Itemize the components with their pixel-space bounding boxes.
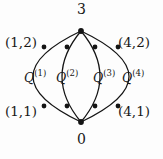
arc-label-1: Q(1) [24, 70, 46, 85]
graph-figure: 3 0 (1,2) (4,2) (1,1) (4,1) Q(1) Q(2) Q(… [0, 0, 163, 159]
arc-3-upper-node [93, 45, 98, 50]
corner-label-bottom-right: (4,1) [118, 105, 150, 119]
arc-1-upper-node [42, 45, 47, 50]
bottom-vertex-label: 0 [0, 132, 163, 146]
corner-label-top-right: (4,2) [118, 36, 150, 50]
bottom-vertex-node [78, 119, 84, 125]
arc-label-2-base: Q [56, 70, 66, 85]
arc-label-3-superscript: (3) [103, 68, 115, 78]
arc-2-lower-node [65, 104, 70, 109]
corner-label-bottom-left: (1,1) [5, 105, 37, 119]
vertex-node-group [78, 28, 84, 125]
arc-label-1-superscript: (1) [34, 68, 46, 78]
arc-label-4-base: Q [122, 70, 132, 85]
arc-label-1-base: Q [24, 70, 34, 85]
arc-label-4-superscript: (4) [132, 68, 144, 78]
arc-1-lower-node [42, 104, 47, 109]
arc-label-2: Q(2) [56, 70, 78, 85]
arc-label-4: Q(4) [122, 70, 144, 85]
top-vertex-node [78, 28, 84, 34]
top-vertex-label: 3 [0, 2, 163, 16]
arc-2-upper-node [65, 45, 70, 50]
arc-label-2-superscript: (2) [66, 68, 78, 78]
arc-label-3: Q(3) [93, 70, 115, 85]
arc-3-lower-node [93, 104, 98, 109]
corner-label-top-left: (1,2) [5, 36, 37, 50]
arc-label-3-base: Q [93, 70, 103, 85]
